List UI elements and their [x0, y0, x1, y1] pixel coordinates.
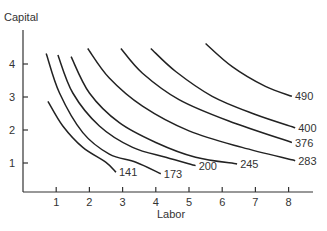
- x-tick-label: 3: [120, 196, 126, 208]
- x-axis-title: Labor: [157, 208, 185, 220]
- x-tick-label: 1: [53, 196, 59, 208]
- isoquant-label: 400: [298, 122, 316, 134]
- x-tick-label: 5: [186, 196, 192, 208]
- isoquant-400: [151, 49, 295, 128]
- isoquant-label: 376: [295, 137, 313, 149]
- x-tick-label: 4: [153, 196, 159, 208]
- isoquant-490: [206, 44, 292, 97]
- y-tick-label: 1: [9, 157, 15, 169]
- isoquant-245: [71, 57, 237, 164]
- isoquant-label: 141: [119, 166, 137, 178]
- x-tick-label: 2: [86, 196, 92, 208]
- x-tick-label: 8: [286, 196, 292, 208]
- isoquant-label: 283: [298, 155, 316, 167]
- x-ticks: 12345678: [53, 187, 292, 208]
- y-axis-title: Capital: [4, 11, 38, 23]
- isoquant-283: [88, 49, 296, 161]
- isoquant-chart: 12345678 1234 Capital Labor 141173200245…: [0, 0, 327, 231]
- y-tick-label: 2: [9, 124, 15, 136]
- isoquant-curves: 141173200245283376400490: [46, 44, 316, 180]
- y-tick-label: 3: [9, 91, 15, 103]
- y-tick-label: 4: [9, 58, 15, 70]
- isoquant-376: [121, 49, 292, 143]
- isoquant-label: 490: [295, 90, 313, 102]
- isoquant-label: 245: [240, 158, 258, 170]
- x-tick-label: 6: [219, 196, 225, 208]
- x-tick-label: 7: [252, 196, 258, 208]
- y-ticks: 1234: [9, 58, 28, 169]
- isoquant-label: 173: [164, 168, 182, 180]
